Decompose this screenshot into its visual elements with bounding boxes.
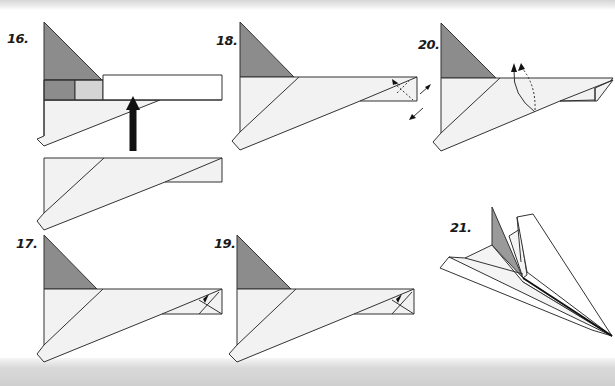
step-label-20: 20. <box>418 37 440 52</box>
step-19-diagram <box>229 235 414 362</box>
step-label-17: 17. <box>16 236 38 251</box>
step-label-19: 19. <box>214 236 236 251</box>
origami-diagram <box>0 0 615 386</box>
step-label-21: 21. <box>450 220 472 235</box>
step-20-diagram <box>433 23 613 151</box>
step-label-18: 18. <box>216 33 238 48</box>
step-17-diagram <box>37 235 222 362</box>
step-18-diagram <box>232 22 431 150</box>
step-label-16: 16. <box>7 31 29 46</box>
step-16-diagram <box>37 22 222 230</box>
